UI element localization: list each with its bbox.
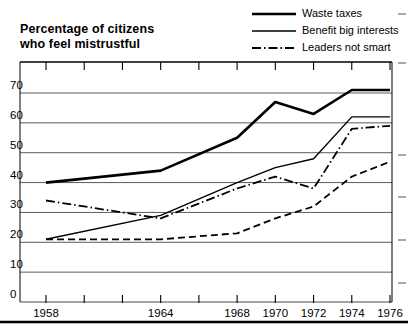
chart-x-tick-labels: 1958196419681970197219741976 bbox=[33, 307, 403, 319]
chart-gridlines bbox=[20, 93, 392, 302]
x-tick-label: 1972 bbox=[301, 307, 327, 319]
x-tick-label: 1964 bbox=[148, 307, 174, 319]
x-tick-label: 1976 bbox=[377, 307, 403, 319]
y-tick-label: 50 bbox=[10, 139, 23, 151]
chart-series-lines bbox=[46, 90, 390, 239]
y-tick-label: 10 bbox=[10, 258, 23, 270]
series-line bbox=[46, 126, 390, 219]
x-tick-label: 1974 bbox=[339, 307, 365, 319]
chart-right-edge-stubs bbox=[398, 14, 406, 283]
chart-y-tick-labels: 010203040506070 bbox=[10, 79, 23, 300]
x-tick-label: 1958 bbox=[33, 307, 59, 319]
series-line bbox=[46, 162, 390, 240]
x-tick-label: 1968 bbox=[224, 307, 250, 319]
y-tick-label: 60 bbox=[10, 109, 23, 121]
chart-plot-area: 010203040506070 195819641968197019721974… bbox=[0, 0, 408, 332]
y-tick-label: 20 bbox=[10, 228, 23, 240]
y-tick-label: 70 bbox=[10, 79, 23, 91]
series-line bbox=[46, 90, 390, 183]
y-tick-label: 40 bbox=[10, 169, 23, 181]
y-tick-label: 0 bbox=[10, 288, 16, 300]
chart-axes bbox=[0, 62, 408, 322]
y-tick-label: 30 bbox=[10, 198, 23, 210]
chart-figure: Percentage of citizens who feel mistrust… bbox=[0, 0, 408, 332]
x-tick-label: 1970 bbox=[263, 307, 289, 319]
